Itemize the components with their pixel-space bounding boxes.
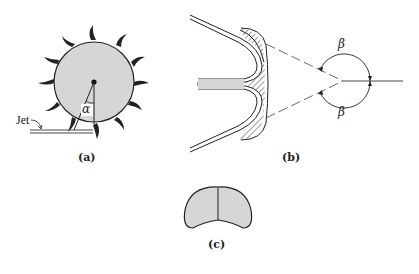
bucket-section [190,15,403,152]
pelton-wheel [30,25,149,139]
beta-top-label: β [338,37,345,51]
bucket-front-view [184,187,251,228]
figure-canvas [0,0,419,274]
panel-label-b: (b) [282,151,300,164]
panel-label-c: (c) [208,238,225,251]
beta-bottom-label: β [338,105,345,119]
alpha-label: α [82,102,90,116]
panel-label-a: (a) [78,151,96,164]
jet-label: Jet [16,113,29,128]
